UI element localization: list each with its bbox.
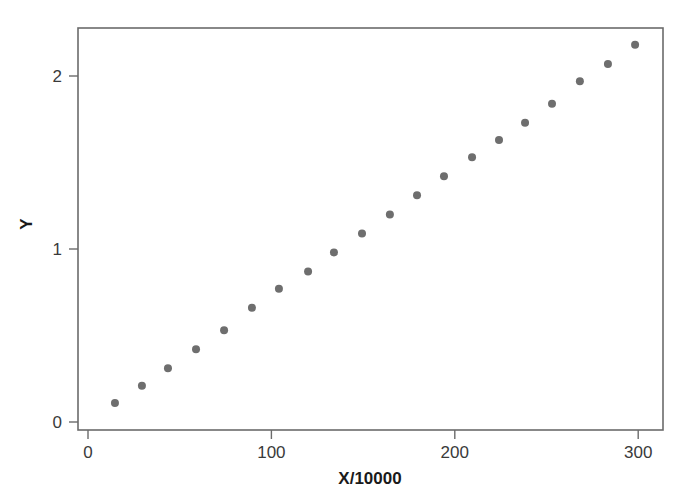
data-point — [576, 77, 584, 85]
data-point — [548, 100, 556, 108]
y-axis-ticks — [69, 76, 78, 422]
data-point — [111, 399, 119, 407]
data-point — [440, 172, 448, 180]
data-point — [192, 345, 200, 353]
data-point — [330, 248, 338, 256]
y-axis-title: Y — [17, 218, 36, 230]
data-point — [413, 191, 421, 199]
scatter-plot-figure: 0100200300 012 X/10000 Y — [0, 0, 696, 498]
x-axis-ticks — [88, 430, 638, 439]
data-point — [248, 304, 256, 312]
x-axis-tick-labels: 0100200300 — [83, 443, 652, 462]
y-tick-label: 2 — [53, 67, 62, 86]
x-axis-title: X/10000 — [338, 469, 401, 488]
data-point — [304, 267, 312, 275]
data-point — [358, 229, 366, 237]
data-point-series — [111, 41, 639, 407]
data-point — [275, 285, 283, 293]
y-axis-tick-labels: 012 — [53, 67, 62, 432]
y-tick-label: 0 — [53, 413, 62, 432]
data-point — [220, 326, 228, 334]
y-tick-label: 1 — [53, 240, 62, 259]
data-point — [164, 364, 172, 372]
data-point — [521, 119, 529, 127]
data-point — [604, 60, 612, 68]
x-tick-label: 100 — [257, 443, 285, 462]
data-point — [468, 153, 476, 161]
plot-canvas: 0100200300 012 X/10000 Y — [0, 0, 696, 498]
data-point — [386, 210, 394, 218]
data-point — [631, 41, 639, 49]
x-tick-label: 200 — [441, 443, 469, 462]
data-point — [138, 382, 146, 390]
x-tick-label: 0 — [83, 443, 92, 462]
x-tick-label: 300 — [624, 443, 652, 462]
data-point — [495, 136, 503, 144]
